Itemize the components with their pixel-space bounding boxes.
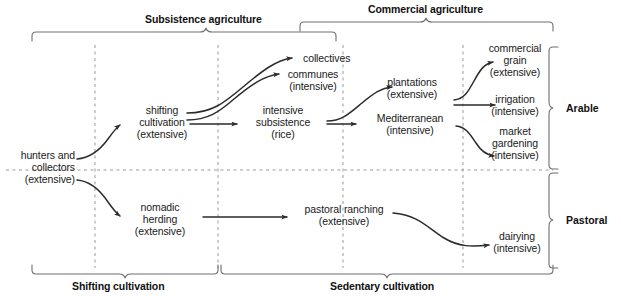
node-communes: communes (intensive) [274,68,352,92]
node-line: herding [119,213,201,225]
bracket-sedentary-cultivation [221,265,553,278]
node-plantations: plantations (extensive) [371,76,453,100]
node-line: irrigation [477,93,553,105]
bracket-shifting-cultivation [32,265,218,278]
node-intensive-subsistence: intensive subsistence (rice) [244,104,322,141]
node-line: (intensive) [274,80,352,92]
node-pastoral-ranching: pastoral ranching (extensive) [292,203,396,227]
group-label-subsistence-agriculture: Subsistence agriculture [145,13,262,25]
node-dairying: dairying (intensive) [480,230,554,254]
side-label-arable: Arable [566,102,599,114]
group-label-sedentary-cultivation: Sedentary cultivation [330,280,434,292]
node-irrigation: irrigation (intensive) [477,93,553,117]
group-label-commercial-agriculture: Commercial agriculture [368,3,483,15]
node-line: commercial [477,42,553,54]
node-line: grain [477,54,553,66]
node-line: gardening [477,137,553,149]
agriculture-diagram: Subsistence agriculture Commercial agric… [0,0,621,296]
node-line: (rice) [244,128,322,140]
edge-hunters-to-shifting [77,125,120,159]
edge-hunters-to-nomadic [77,180,120,216]
bracket-commercial-agriculture [300,18,553,31]
node-line: (extensive) [119,225,201,237]
node-line: (intensive) [362,124,458,136]
node-line: (extensive) [371,88,453,100]
node-line: subsistence [244,116,322,128]
node-line: (extensive) [121,128,203,140]
node-line: collectives [303,52,373,64]
node-line: shifting [121,104,203,116]
node-commercial-grain: commercial grain (extensive) [477,42,553,79]
node-line: dairying [480,230,554,242]
node-line: hunters and [3,149,75,161]
top-brackets [32,18,553,41]
node-line: (intensive) [480,242,554,254]
node-line: (extensive) [292,215,396,227]
node-line: market [477,125,553,137]
node-hunters-and-collectors: hunters and collectors (extensive) [3,149,75,186]
edge-pastoral-ranching-to-dairying [393,213,489,246]
node-nomadic-herding: nomadic herding (extensive) [119,201,201,238]
node-line: nomadic [119,201,201,213]
node-line: (extensive) [477,66,553,78]
node-line: cultivation [121,116,203,128]
node-line: (extensive) [3,173,75,185]
node-line: intensive [244,104,322,116]
node-line: pastoral ranching [292,203,396,215]
node-line: collectors [3,161,75,173]
node-collectives: collectives [303,52,373,64]
group-label-shifting-cultivation: Shifting cultivation [72,280,165,292]
node-line: (intensive) [477,105,553,117]
node-line: communes [274,68,352,80]
node-market-gardening: market gardening (intensive) [477,125,553,162]
node-line: Mediterranean [362,112,458,124]
bracket-subsistence-agriculture [32,28,336,41]
node-line: plantations [371,76,453,88]
node-mediterranean: Mediterranean (intensive) [362,112,458,136]
node-shifting-cultivation: shifting cultivation (extensive) [121,104,203,141]
side-label-pastoral: Pastoral [566,214,607,226]
node-line: (intensive) [477,149,553,161]
bottom-brackets [32,265,553,278]
